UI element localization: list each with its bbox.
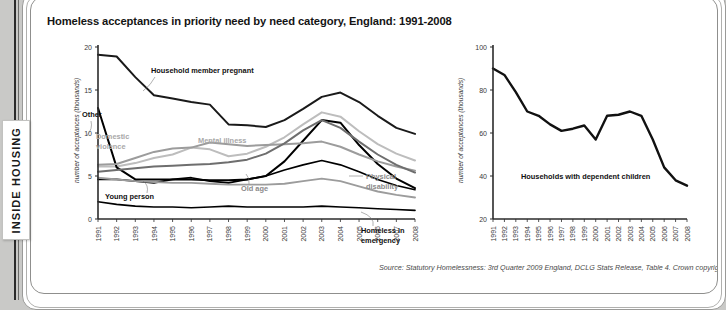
svg-text:1991: 1991 — [490, 226, 497, 242]
svg-text:2005: 2005 — [649, 226, 656, 242]
left-chart: 05101520 1991199219931994199519961997199… — [43, 33, 433, 253]
right-chart-svg: 20406080100 1991199219931994199519961997… — [451, 33, 706, 253]
svg-text:20: 20 — [84, 44, 92, 51]
left-chart-svg: 05101520 1991199219931994199519961997199… — [43, 33, 433, 253]
svg-text:5: 5 — [88, 173, 92, 180]
svg-text:1991: 1991 — [95, 226, 102, 242]
label-domestic-violence-line1: Domestic — [96, 132, 129, 141]
label-domestic-violence-line2: violence — [96, 142, 126, 151]
svg-text:1996: 1996 — [188, 226, 195, 242]
svg-text:60: 60 — [479, 130, 487, 137]
svg-text:1993: 1993 — [132, 226, 139, 242]
label-physical-disability-line1: Physical — [366, 172, 396, 181]
left-y-axis-title: number of acceptances (thousands) — [73, 78, 81, 183]
svg-text:0: 0 — [88, 216, 92, 223]
svg-text:1992: 1992 — [113, 226, 120, 242]
leader-household-member-pregnant — [143, 77, 155, 91]
svg-text:1996: 1996 — [547, 226, 554, 242]
svg-text:2000: 2000 — [262, 226, 269, 242]
svg-text:1994: 1994 — [151, 226, 158, 242]
svg-text:1993: 1993 — [512, 226, 519, 242]
svg-text:2006: 2006 — [661, 226, 668, 242]
svg-text:1999: 1999 — [581, 226, 588, 242]
svg-text:20: 20 — [479, 216, 487, 223]
svg-text:40: 40 — [479, 173, 487, 180]
svg-text:2002: 2002 — [615, 226, 622, 242]
svg-text:1999: 1999 — [244, 226, 251, 242]
svg-text:2004: 2004 — [337, 226, 344, 242]
svg-text:1998: 1998 — [225, 226, 232, 242]
svg-text:1994: 1994 — [524, 226, 531, 242]
svg-text:15: 15 — [84, 87, 92, 94]
right-chart: 20406080100 1991199219931994199519961997… — [451, 33, 706, 253]
svg-text:2004: 2004 — [638, 226, 645, 242]
label-homeless-in-emergency-line1: Homeless in — [361, 226, 405, 235]
chart-card: Homeless acceptances in priority need by… — [30, 0, 718, 294]
svg-text:1998: 1998 — [569, 226, 576, 242]
right-y-axis-ticks: 20406080100 — [475, 44, 493, 223]
svg-text:1997: 1997 — [206, 226, 213, 242]
svg-text:100: 100 — [475, 44, 487, 51]
page-title: Homeless acceptances in priority need by… — [47, 15, 452, 27]
svg-text:2003: 2003 — [627, 226, 634, 242]
svg-text:2003: 2003 — [318, 226, 325, 242]
svg-text:2008: 2008 — [684, 226, 691, 242]
svg-text:2002: 2002 — [300, 226, 307, 242]
svg-text:1992: 1992 — [501, 226, 508, 242]
svg-text:2000: 2000 — [592, 226, 599, 242]
brand-tab: INSIDE HOUSING — [2, 120, 30, 240]
label-dependent-children: Households with dependent children — [521, 172, 651, 181]
brand-label: INSIDE HOUSING — [10, 127, 22, 233]
label-mental-illness: Mental illness — [198, 136, 246, 145]
source-note: Source: Statutory Homelessness: 3rd Quar… — [379, 263, 718, 272]
svg-text:1997: 1997 — [558, 226, 565, 242]
label-household-member-pregnant: Household member pregnant — [151, 66, 254, 75]
svg-text:1995: 1995 — [535, 226, 542, 242]
label-other: Other — [82, 110, 102, 119]
right-series-group — [493, 69, 687, 186]
label-homeless-in-emergency-line2: emergency — [361, 236, 401, 245]
svg-text:2007: 2007 — [672, 226, 679, 242]
label-physical-disability-line2: disability — [366, 182, 399, 191]
right-x-axis-ticks: 1991199219931994199519961997199819992000… — [490, 219, 691, 242]
svg-text:10: 10 — [84, 130, 92, 137]
svg-text:2001: 2001 — [281, 226, 288, 242]
svg-text:1995: 1995 — [169, 226, 176, 242]
label-young-person: Young person — [105, 192, 155, 201]
svg-text:80: 80 — [479, 87, 487, 94]
label-old-age: Old age — [241, 184, 268, 193]
svg-text:2001: 2001 — [604, 226, 611, 242]
right-y-axis-title: number of acceptances (thousands) — [457, 78, 465, 183]
svg-text:2008: 2008 — [412, 226, 419, 242]
